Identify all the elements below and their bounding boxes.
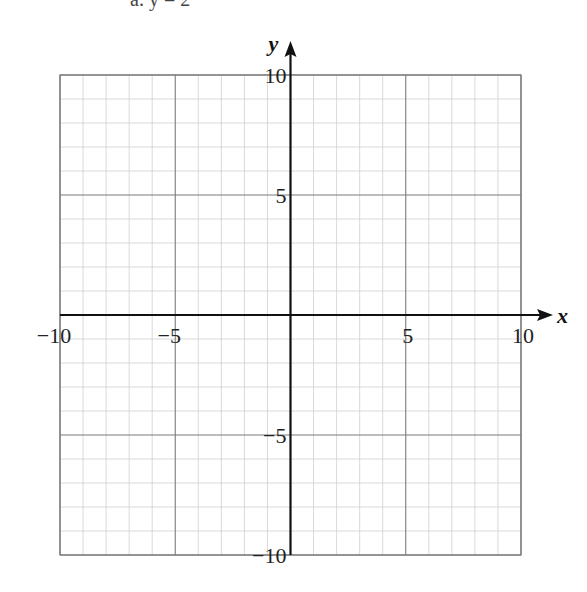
y-tick-label: −10 (252, 543, 286, 568)
coordinate-grid: −10−5510−10−5510 x y (0, 0, 587, 592)
x-tick-label: −10 (37, 323, 71, 348)
y-tick-label: −5 (263, 423, 286, 448)
x-axis-label: x (556, 303, 568, 328)
y-tick-label: 10 (265, 63, 287, 88)
x-tick-label: −5 (158, 323, 181, 348)
x-tick-label: 5 (402, 323, 413, 348)
axes (60, 41, 553, 555)
y-tick-label: 5 (276, 183, 287, 208)
x-tick-label: 10 (512, 323, 534, 348)
y-axis-label: y (266, 31, 279, 56)
